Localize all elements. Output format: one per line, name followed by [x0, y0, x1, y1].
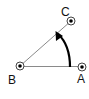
segment-bc [20, 21, 71, 66]
rotation-arrow-icon [56, 31, 71, 67]
label-c: C [61, 5, 70, 19]
label-a: A [77, 72, 85, 86]
point-a[interactable] [78, 63, 86, 71]
label-b: B [8, 73, 16, 87]
angle-diagram: A B C [0, 0, 89, 99]
point-b[interactable] [16, 62, 24, 70]
